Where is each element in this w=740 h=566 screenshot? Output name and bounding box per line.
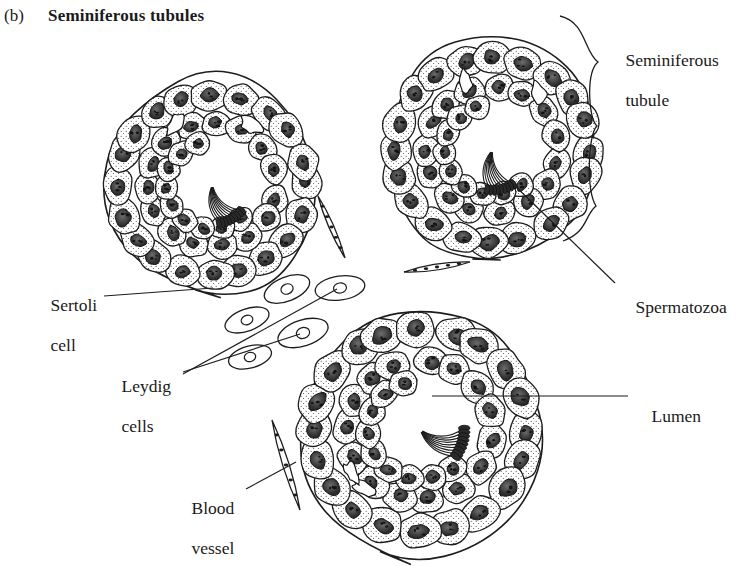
chromatin-speck (434, 476, 436, 479)
chromatin-speck (368, 377, 372, 380)
chromatin-speck (517, 92, 520, 94)
chromatin-speck (384, 393, 388, 395)
chromatin-speck (184, 220, 187, 223)
chromatin-speck (365, 434, 368, 436)
chromatin-speck (574, 100, 576, 102)
chromatin-speck (311, 402, 314, 404)
chromatin-speck (581, 122, 584, 124)
chromatin-speck (429, 474, 433, 476)
label-seminiferous-tubule-line1: Seminiferous (626, 50, 719, 70)
chromatin-speck (520, 185, 524, 188)
chromatin-speck (455, 370, 459, 372)
chromatin-speck (155, 258, 157, 259)
chromatin-speck (381, 522, 384, 525)
blood-cell (446, 264, 450, 267)
chromatin-speck (520, 239, 524, 241)
chromatin-speck (364, 431, 366, 434)
label-seminiferous-tubule-line2: tubule (626, 90, 670, 110)
chromatin-speck (518, 58, 521, 60)
chromatin-speck (168, 170, 171, 172)
blood-cell (457, 262, 461, 265)
chromatin-speck (570, 97, 572, 100)
chromatin-speck (319, 404, 323, 407)
chromatin-speck (416, 329, 420, 331)
chromatin-speck (465, 187, 467, 189)
chromatin-speck (433, 223, 437, 225)
chromatin-speck (372, 373, 375, 376)
chromatin-speck (478, 192, 481, 195)
chromatin-speck (403, 178, 406, 180)
chromatin-speck (554, 161, 557, 164)
chromatin-speck (441, 150, 445, 153)
chromatin-speck (244, 234, 247, 236)
chromatin-speck (523, 399, 526, 401)
chromatin-speck (360, 345, 363, 348)
chromatin-speck (435, 71, 438, 73)
chromatin-speck (179, 272, 183, 274)
chromatin-speck (426, 359, 430, 361)
chromatin-speck (523, 429, 526, 431)
chromatin-speck (469, 206, 472, 209)
chromatin-speck (390, 366, 393, 368)
chromatin-speck (474, 105, 477, 107)
chromatin-speck (554, 74, 556, 76)
chromatin-speck (191, 128, 195, 130)
chromatin-speck (505, 370, 508, 372)
chromatin-speck (416, 527, 419, 530)
chromatin-speck (180, 219, 184, 221)
chromatin-speck (572, 203, 575, 206)
chromatin-speck (428, 173, 431, 175)
blood-cell (279, 449, 283, 452)
chromatin-speck (477, 467, 480, 469)
chromatin-speck (195, 244, 197, 246)
chromatin-speck (334, 370, 337, 373)
chromatin-speck (486, 440, 490, 443)
label-leydig-cells-line1: Leydig (122, 376, 172, 396)
chromatin-speck (449, 528, 452, 530)
blood-cell (424, 267, 428, 270)
chromatin-speck (217, 121, 220, 123)
chromatin-speck (181, 99, 184, 101)
blood-cell (334, 236, 338, 239)
chromatin-speck (303, 211, 307, 214)
chromatin-speck (388, 468, 390, 470)
chromatin-speck (446, 132, 449, 134)
chromatin-speck (208, 92, 211, 95)
cell-nucleus (577, 112, 592, 127)
chromatin-speck (289, 126, 292, 129)
chromatin-speck (375, 480, 378, 482)
chromatin-speck (281, 240, 284, 242)
seminiferous-tubule-section (296, 312, 543, 565)
chromatin-speck (170, 232, 174, 234)
chromatin-speck (273, 169, 277, 172)
chromatin-speck (204, 228, 208, 230)
chromatin-speck (445, 102, 448, 105)
label-sertoli-cell-line1: Sertoli (51, 295, 98, 315)
chromatin-speck (449, 523, 452, 526)
chromatin-speck (516, 65, 520, 66)
chromatin-speck (416, 326, 420, 328)
chromatin-speck (448, 173, 452, 175)
chromatin-speck (171, 203, 175, 205)
figure-canvas: (b) Seminiferous tubules (0, 0, 740, 566)
chromatin-speck (209, 95, 213, 97)
cell-nucleus (471, 380, 485, 394)
label-spermatozoa: Spermatozoa (618, 277, 727, 337)
chromatin-speck (115, 189, 119, 191)
blood-cell (329, 226, 333, 229)
chromatin-speck (349, 426, 352, 429)
chromatin-speck (405, 475, 408, 478)
chromatin-speck (300, 212, 302, 214)
chromatin-speck (344, 422, 347, 424)
chromatin-speck (414, 92, 416, 95)
chromatin-speck (155, 112, 159, 114)
blood-vessel (404, 262, 470, 272)
blood-cell (289, 479, 293, 482)
chromatin-speck (473, 385, 477, 386)
chromatin-speck (426, 149, 430, 152)
chromatin-speck (464, 185, 468, 187)
blood-cell (435, 266, 439, 269)
chromatin-speck (369, 480, 372, 483)
chromatin-speck (414, 529, 416, 532)
chromatin-speck (314, 427, 318, 429)
